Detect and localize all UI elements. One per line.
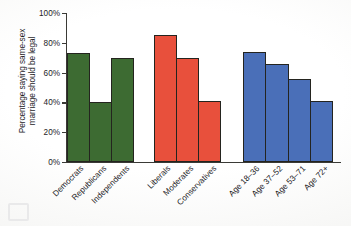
bar	[288, 79, 311, 162]
bar	[89, 102, 112, 162]
y-tick-label: 20%	[44, 128, 60, 137]
bar	[198, 101, 221, 162]
y-tick-mark	[62, 162, 67, 163]
y-tick-label: 40%	[44, 98, 60, 107]
chart-figure: Percentage saying same-sex marriage shou…	[0, 0, 351, 226]
y-tick-mark	[62, 13, 67, 14]
y-tick-mark	[62, 132, 67, 133]
bar	[67, 53, 90, 162]
bar-group-age	[243, 13, 336, 162]
bar	[176, 58, 199, 162]
plot-area: 0%20%40%60%80%100%	[66, 13, 341, 162]
y-axis-title-text: Percentage saying same-sex marriage shou…	[17, 29, 38, 133]
y-tick-label: 0%	[48, 158, 60, 167]
bar-group-party	[67, 13, 136, 162]
y-tick-mark	[62, 73, 67, 74]
scan-artifact	[8, 203, 29, 221]
y-tick-label: 60%	[44, 68, 60, 77]
bar	[310, 101, 333, 162]
y-tick-mark	[62, 102, 67, 103]
y-tick-mark	[62, 43, 67, 44]
x-axis-labels: DemocratsRepublicansIndependentsLiberals…	[66, 164, 351, 226]
bar	[265, 64, 288, 162]
bar-group-ideology	[154, 13, 223, 162]
y-tick-label: 80%	[44, 38, 60, 47]
y-tick-label: 100%	[39, 9, 60, 18]
bar	[243, 52, 266, 162]
bar	[111, 58, 134, 162]
bar	[154, 35, 177, 162]
